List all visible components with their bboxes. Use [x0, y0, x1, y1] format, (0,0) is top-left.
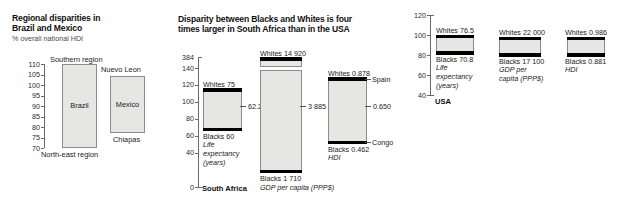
sa-hdi-congo-leader	[365, 142, 371, 143]
chart1-ytickmark-90	[41, 106, 44, 107]
bar-mexico-label: Mexico	[111, 100, 144, 109]
chart2-ytick-384: 384	[172, 54, 194, 61]
sa-hdi-top-ref: Spain	[372, 75, 390, 84]
chart1-ytick-105: 105	[18, 71, 40, 78]
chart2-ytick-140: 140	[172, 65, 194, 72]
chart-brazil-mexico: Regional disparities in Brazil and Mexic…	[0, 0, 172, 197]
chart2-ytickmark-120	[195, 85, 198, 86]
chart1-ytickmark-100	[41, 85, 44, 86]
chart3-ytick-40: 40	[404, 92, 426, 99]
chart2-ytickmark-40	[195, 153, 198, 154]
chart2-ytick-40: 40	[172, 149, 194, 156]
chart3-ytickmark-100	[427, 35, 430, 36]
chart1-title: Regional disparities in Brazil and Mexic…	[12, 13, 162, 33]
bar-usa-hdi-whites-cap	[567, 37, 605, 41]
bar-sa-gdp-blacks-cap	[260, 170, 302, 174]
chart3-ytick-80: 80	[404, 52, 426, 59]
chart3-country-label: USA	[435, 97, 451, 106]
chart1-ytick-75: 75	[18, 134, 40, 141]
chart2-ytick-60: 60	[172, 132, 194, 139]
chart2-country-label: South Africa	[202, 184, 247, 193]
chart2-y-axis-top-cap	[198, 57, 202, 58]
bar-brazil: Brazil	[62, 64, 97, 148]
bar-brazil-label: Brazil	[63, 101, 96, 110]
chart-usa: 120 100 80 60 40 USA Whites 76.5 Blacks …	[404, 0, 628, 197]
mexico-top-label: Nuevo Leon	[101, 65, 141, 74]
bar-sa-gdp-body	[260, 70, 302, 173]
chart3-ytick-60: 60	[404, 72, 426, 79]
chart1-ytickmark-70	[41, 148, 44, 149]
chart3-ytick-100: 100	[404, 32, 426, 39]
chart2-ytickmark-0	[195, 187, 198, 188]
sa-hdi-measure-line1: HDI	[328, 154, 340, 162]
chart2-ytick-0: 0	[172, 184, 194, 191]
chart2-title-line2: times larger in South Africa than in the…	[178, 24, 404, 34]
mexico-bottom-label: Chiapas	[113, 135, 140, 144]
chart1-title-line2: Brazil and Mexico	[12, 23, 162, 33]
chart1-ytickmark-110	[41, 64, 44, 65]
chart1-y-axis	[44, 64, 45, 148]
chart1-subtitle: % overall national HDI	[12, 34, 83, 43]
chart3-ytickmark-60	[427, 75, 430, 76]
chart3-ytickmark-80	[427, 55, 430, 56]
sa-gdp-measure-line1: GDP per capita (PPP$)	[260, 184, 334, 192]
chart3-ytick-120: 120	[404, 12, 426, 19]
chart2-ytickmark-60	[195, 136, 198, 137]
chart1-ytickmark-80	[41, 127, 44, 128]
sa-hdi-spain-leader	[365, 79, 371, 80]
sa-hdi-mid-value: 0.650	[373, 102, 391, 111]
chart1-ytick-80: 80	[18, 124, 40, 131]
sa-life-mid-tick	[240, 106, 246, 107]
brazil-bottom-label: North-east region	[41, 150, 98, 159]
chart2-ytick-100: 100	[172, 98, 194, 105]
bar-mexico: Mexico	[110, 76, 145, 133]
usa-gdp-measure-line2: capita (PPP$)	[499, 75, 543, 83]
chart3-y-axis-top-cap	[430, 15, 434, 16]
chart3-y-axis-bottom-cap	[430, 95, 434, 96]
sa-hdi-bottom-ref: Congo	[372, 138, 393, 147]
chart3-y-axis	[430, 15, 431, 95]
sa-gdp-mid-value: 3 885	[308, 102, 326, 111]
chart2-ytick-120: 120	[172, 81, 194, 88]
bar-sa-hdi	[328, 77, 367, 144]
bar-usa-life-blacks-cap	[436, 51, 474, 55]
chart1-ytickmark-85	[41, 117, 44, 118]
chart2-title-line1: Disparity between Blacks and Whites is f…	[178, 14, 404, 24]
bar-usa-gdp-whites-cap	[499, 37, 541, 41]
usa-life-measure-line3: (years)	[436, 82, 458, 90]
chart1-ytick-85: 85	[18, 113, 40, 120]
chart1-ytick-95: 95	[18, 92, 40, 99]
bar-sa-hdi-whites-cap	[328, 77, 367, 81]
brazil-top-label: Southern region	[50, 55, 103, 64]
sa-gdp-mid-tick	[300, 106, 306, 107]
chart1-ytickmark-75	[41, 138, 44, 139]
sa-gdp-blacks-label: Blacks 1 710	[260, 174, 301, 183]
chart2-ytickmark-100	[195, 102, 198, 103]
bar-usa-gdp-blacks-cap	[499, 53, 541, 57]
sa-life-measure-line3: (years)	[203, 159, 225, 167]
chart1-ytick-70: 70	[18, 145, 40, 152]
bar-sa-life-blacks-cap	[203, 128, 242, 132]
chart3-ytickmark-40	[427, 95, 430, 96]
chart2-ytickmark-80	[195, 119, 198, 120]
chart-south-africa: Disparity between Blacks and Whites is f…	[172, 0, 404, 197]
bar-sa-hdi-blacks-cap	[328, 141, 367, 145]
chart1-ytick-110: 110	[18, 61, 40, 68]
bar-sa-life-expectancy	[203, 88, 242, 131]
usa-hdi-measure-line1: HDI	[565, 66, 577, 74]
chart2-ytick-80: 80	[172, 115, 194, 122]
chart2-title: Disparity between Blacks and Whites is f…	[178, 14, 404, 34]
chart1-ytickmark-95	[41, 96, 44, 97]
bar-sa-life-whites-cap	[203, 88, 242, 92]
bar-sa-gdp-whites-cap	[260, 57, 302, 61]
chart1-ytickmark-105	[41, 75, 44, 76]
chart1-ytick-100: 100	[18, 82, 40, 89]
sa-hdi-mid-tick	[365, 106, 371, 107]
chart2-ytickmark-140	[195, 68, 198, 69]
chart2-y-axis	[198, 57, 199, 187]
bar-usa-hdi-blacks-cap	[567, 53, 605, 57]
bar-usa-life-whites-cap	[436, 35, 474, 39]
chart1-title-line1: Regional disparities in	[12, 13, 162, 23]
chart3-ytickmark-120	[427, 15, 430, 16]
chart1-ytick-90: 90	[18, 103, 40, 110]
